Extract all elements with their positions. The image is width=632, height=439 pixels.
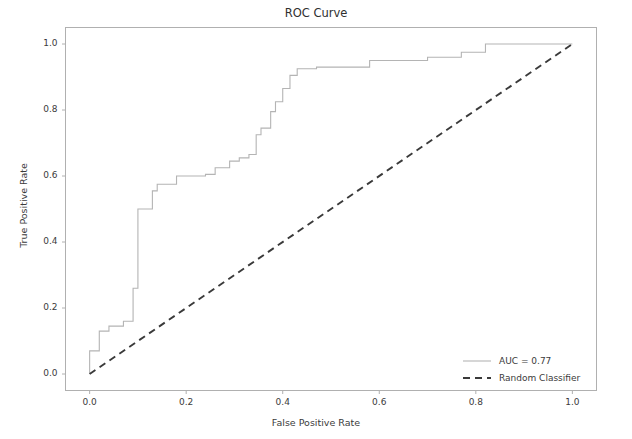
x-axis-label: False Positive Rate xyxy=(0,417,632,428)
legend-item-random-classifier: Random Classifier xyxy=(462,369,580,386)
x-tick-label: 0.8 xyxy=(456,397,496,407)
y-tick-label: 0.0 xyxy=(24,368,58,378)
x-tick-label: 1.0 xyxy=(552,397,592,407)
legend-swatch-random-classifier xyxy=(462,372,492,384)
legend-label-random-classifier: Random Classifier xyxy=(499,373,580,383)
legend-item-auc: AUC = 0.77 xyxy=(462,352,580,369)
x-tick-label: 0.2 xyxy=(166,397,206,407)
y-tick-marks xyxy=(62,44,66,374)
legend-swatch-auc xyxy=(462,355,492,367)
chart-legend: AUC = 0.77 Random Classifier xyxy=(462,352,580,386)
x-tick-label: 0.4 xyxy=(263,397,303,407)
y-tick-label: 0.2 xyxy=(24,302,58,312)
y-tick-label: 0.6 xyxy=(24,170,58,180)
x-tick-label: 0.6 xyxy=(359,397,399,407)
roc-curve-figure: ROC Curve 0.00.20.40.60.81.0 0.00.20.40.… xyxy=(0,0,632,439)
y-axis-label: True Positive Rate xyxy=(18,136,29,276)
legend-label-auc: AUC = 0.77 xyxy=(499,356,551,366)
y-tick-label: 0.4 xyxy=(24,236,58,246)
y-tick-label: 0.8 xyxy=(24,104,58,114)
x-tick-label: 0.0 xyxy=(70,397,110,407)
y-tick-label: 1.0 xyxy=(24,38,58,48)
x-tick-marks xyxy=(90,391,573,395)
